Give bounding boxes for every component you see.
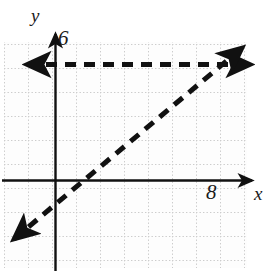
y-axis-label: y bbox=[31, 6, 39, 25]
y-tick-label-6: 6 bbox=[58, 28, 69, 49]
coordinate-plane-svg bbox=[0, 0, 277, 273]
x-axis-label: x bbox=[254, 184, 262, 203]
graph-figure: y x 6 8 bbox=[0, 0, 277, 273]
x-tick-label-8: 8 bbox=[206, 182, 217, 203]
